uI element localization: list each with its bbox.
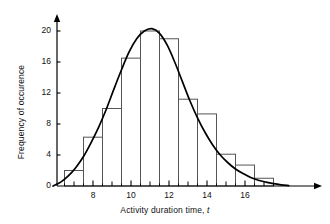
y-axis-tick-label: 4 (31, 149, 51, 159)
y-axis-tick-label: 0 (31, 180, 51, 190)
histogram-bar (160, 39, 179, 186)
histogram-bar (84, 137, 103, 186)
y-axis-tick-label: 20 (31, 25, 51, 35)
histogram-bar (141, 31, 160, 186)
x-axis-tick-label: 8 (83, 190, 103, 200)
x-axis-tick-label: 14 (197, 190, 217, 200)
y-axis-arrow-icon (54, 14, 60, 22)
histogram-bars (65, 31, 274, 186)
y-axis-tick-label: 16 (31, 56, 51, 66)
histogram-figure: Activity duration time, t Frequency of o… (0, 0, 330, 224)
x-axis-tick-label: 10 (121, 190, 141, 200)
histogram-bar (217, 154, 236, 186)
x-axis-title-variable: t (207, 205, 210, 215)
histogram-bar (103, 109, 122, 187)
x-axis-title: Activity duration time, t (0, 205, 330, 215)
y-axis-title: Frequency of occurence (14, 0, 28, 224)
x-axis-arrow-icon (314, 183, 322, 189)
y-axis-tick-label: 12 (31, 87, 51, 97)
histogram-bar (122, 58, 141, 186)
x-axis-tick-label: 12 (159, 190, 179, 200)
y-axis-tick-label: 8 (31, 118, 51, 128)
x-axis-title-text: Activity duration time, (120, 205, 207, 215)
x-axis-tick-label: 16 (235, 190, 255, 200)
